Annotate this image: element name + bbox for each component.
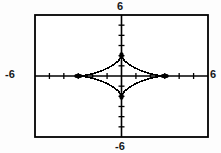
graph-plot-area (0, 0, 221, 153)
calculator-graph-screenshot: 6 -6 -6 6 (0, 0, 221, 153)
